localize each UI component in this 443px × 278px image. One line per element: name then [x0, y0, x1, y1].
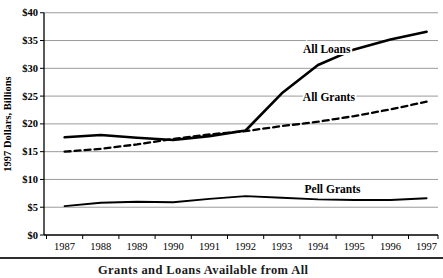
x-tick-label: 1987	[54, 241, 75, 252]
series-label: Pell Grants	[305, 183, 361, 195]
y-tick-label: $10	[22, 174, 38, 185]
y-tick-label: $25	[22, 91, 38, 102]
caption-clipped: Grants and Loans Available from All	[98, 263, 308, 278]
x-tick-label: 1997	[416, 241, 437, 252]
x-tick-label: 1996	[380, 241, 401, 252]
y-tick-label: $15	[22, 146, 38, 157]
x-tick-label: 1988	[90, 241, 111, 252]
series-label: All Loans	[303, 43, 351, 55]
x-tick-label: 1992	[235, 241, 256, 252]
x-tick-label: 1991	[199, 241, 220, 252]
x-tick-label: 1993	[271, 241, 292, 252]
y-axis-title: 1997 Dollars, Billions	[2, 76, 13, 171]
x-tick-label: 1994	[308, 241, 330, 252]
series-label: All Grants	[303, 91, 356, 103]
y-tick-label: $5	[28, 202, 39, 213]
x-tick-label: 1989	[127, 241, 148, 252]
series-line-pell-grants	[65, 196, 427, 206]
bottom-divider	[0, 257, 443, 259]
y-tick-label: $0	[28, 230, 39, 241]
series-line-all-grants	[65, 102, 427, 152]
y-tick-label: $20	[22, 118, 38, 129]
chart-canvas: $0$5$10$15$20$25$30$35$40198719881989199…	[0, 0, 443, 258]
x-tick-label: 1995	[344, 241, 365, 252]
y-tick-label: $35	[22, 35, 38, 46]
y-tick-label: $30	[22, 63, 38, 74]
line-chart: $0$5$10$15$20$25$30$35$40198719881989199…	[0, 0, 443, 258]
x-tick-label: 1990	[163, 241, 184, 252]
y-tick-label: $40	[22, 7, 38, 18]
